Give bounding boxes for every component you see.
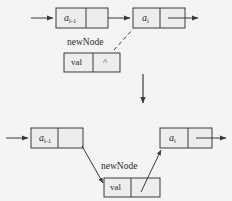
bottom-new-node-name: newNode [101,162,137,172]
top-new-node-name: newNode [67,38,103,48]
node-subscript: i [147,17,149,24]
bottom-node-a-prev-label: ai-1 [39,133,51,143]
node-subscript: i-1 [44,137,51,144]
top-node-a-i-label: ai [142,13,149,23]
node-subscript: i-1 [69,17,76,24]
top-dashed-pointer [114,29,133,50]
bottom-new-node-value-cell: val [110,183,121,192]
top-new-node-null-pointer: ^ [103,58,107,67]
top-new-node-value-cell: val [71,58,82,67]
node-subscript: i [174,137,176,144]
top-node-a-prev-label: ai-1 [64,13,76,23]
linked-list-insertion-figure: ai-1 ai newNode val ^ ai-1 ai newNode va… [0,0,232,201]
bottom-pointer-prev-to-newnode [82,146,103,183]
bottom-node-a-i-label: ai [169,133,176,143]
